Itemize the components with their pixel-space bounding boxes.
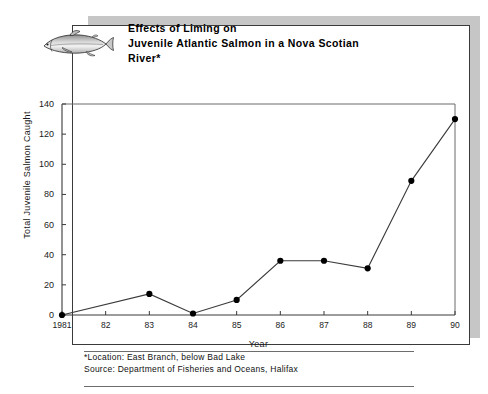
- y-axis-tick-label: 0: [18, 310, 54, 320]
- figure-frame: [72, 25, 470, 345]
- chart-title-line-1: Effects of Liming on: [128, 21, 380, 36]
- chart-title-block: Effects of Liming on Juvenile Atlantic S…: [40, 17, 380, 69]
- x-axis-tick-label: 1981: [42, 320, 82, 330]
- data-point-marker: [59, 312, 65, 318]
- chart-title-text: Effects of Liming on Juvenile Atlantic S…: [128, 21, 380, 66]
- footnote-rule-bottom: [84, 386, 414, 387]
- x-axis-title: Year: [62, 339, 455, 349]
- x-axis-tick-label: 84: [173, 320, 213, 330]
- footnote-block: *Location: East Branch, below Bad Lake S…: [84, 352, 414, 375]
- x-axis-tick-label: 85: [217, 320, 257, 330]
- x-axis-tick-label: 83: [129, 320, 169, 330]
- x-axis-tick-label: 86: [260, 320, 300, 330]
- x-axis-tick-label: 89: [391, 320, 431, 330]
- x-axis-tick-label: 87: [304, 320, 344, 330]
- salmon-fish-icon: [40, 26, 114, 60]
- y-axis-tick-label: 20: [18, 280, 54, 290]
- footnote-location: *Location: East Branch, below Bad Lake: [84, 352, 414, 364]
- y-axis-ticks: [62, 104, 66, 315]
- x-axis-tick-label: 82: [86, 320, 126, 330]
- x-axis-tick-label: 88: [348, 320, 388, 330]
- figure-root: Effects of Liming on Juvenile Atlantic S…: [0, 0, 488, 394]
- y-axis-title: Total Juvenile Salmon Caught: [22, 85, 32, 265]
- x-axis-tick-label: 90: [435, 320, 475, 330]
- chart-title-line-2: Juvenile Atlantic Salmon in a Nova Scoti…: [128, 36, 380, 66]
- footnote-source: Source: Department of Fisheries and Ocea…: [84, 364, 414, 376]
